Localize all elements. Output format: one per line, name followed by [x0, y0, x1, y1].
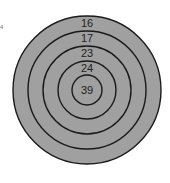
ring-label-3: 23 [81, 47, 93, 59]
ring-label-outer: 16 [81, 17, 93, 29]
ring-label-inner: 39 [81, 84, 93, 96]
ring-label-2: 17 [81, 32, 93, 44]
concentric-target-diagram: 16 17 23 24 39 [0, 0, 170, 183]
ring-label-4: 24 [81, 62, 93, 74]
